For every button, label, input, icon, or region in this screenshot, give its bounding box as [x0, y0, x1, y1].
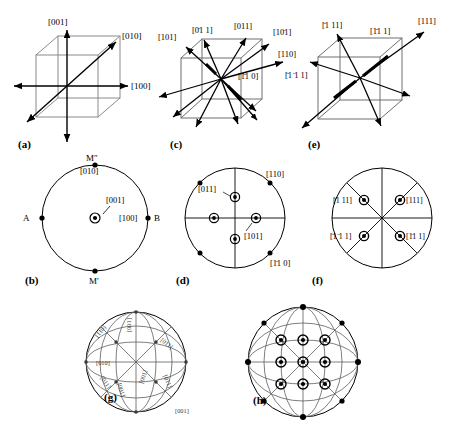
leader-b-001 [103, 206, 110, 214]
directions-c [159, 38, 283, 127]
label-c-110: [110] [278, 49, 296, 59]
caption-b: (b) [25, 274, 39, 287]
label-b-Mprime: M′ [89, 276, 99, 286]
label-d-110: [110] [266, 169, 284, 179]
label-a-010: [010] [122, 31, 142, 41]
pole-b-Mprime [92, 268, 97, 273]
label-f-b1b11: [̈1 ̈1 1] [330, 232, 352, 241]
label-b-B: B [154, 213, 160, 223]
label-g-001-lr: [001] [137, 369, 148, 384]
pole-b-001 [90, 213, 100, 223]
caption-f: (f) [312, 274, 323, 287]
label-c-101: [101] [158, 32, 177, 42]
label-g-001-top: [001] [125, 318, 132, 332]
label-c-1b10: [1̈1 0] [238, 71, 258, 81]
label-a-001: [001] [48, 17, 68, 27]
caption-c: (c) [170, 138, 183, 151]
label-e-111: [111] [418, 16, 436, 26]
caption-e: (e) [308, 138, 321, 151]
pole-b-100 [145, 215, 150, 220]
caption-g: (g) [104, 391, 117, 404]
directions-e [302, 32, 424, 128]
label-b-Msecond: M″ [86, 153, 98, 163]
figure-svg: [001] [010] [100] (a) [0, 0, 465, 434]
label-d-101: [101] [244, 231, 263, 241]
label-g-001-ll: [001] [116, 382, 127, 397]
figure-crystallographic-directions: [001] [010] [100] (a) [0, 0, 465, 434]
label-e-b1b11: [̈1 ̈1 1] [285, 70, 308, 80]
panel-h: (h) [245, 304, 361, 420]
panel-g: [110] [001] [011] [010] [011] [011] [001… [84, 310, 189, 414]
label-d-1b10: [1̈1 0] [270, 258, 290, 268]
label-b-001: [001] [106, 195, 125, 205]
label-g-010: [010] [96, 359, 110, 366]
label-f-111: [111] [406, 196, 423, 205]
label-g-001-out: [001] [175, 407, 189, 414]
label-d-011: [011] [198, 184, 216, 194]
panel-b: M″ [010] [001] [100] A B M′ (b) [23, 153, 160, 287]
panel-c: [101] [0̈1 1] [011] [10̈1] [110] [1̈1 0]… [158, 21, 296, 151]
panel-a: [001] [010] [100] (a) [14, 17, 151, 151]
label-e-1b11: [1̈1 1] [370, 26, 390, 36]
panel-e: [̈1 11] [1̈1 1] [111] [̈1 ̈1 1] (e) [285, 16, 436, 151]
panel-f: [̈1 11] [111] [̈1 ̈1 1] [1̈1 1] (f) [312, 168, 432, 287]
panel-d: [011] [101] [110] [1̈1 0] (d) [176, 168, 290, 287]
label-e-b111: [̈1 11] [322, 20, 342, 30]
axes-a [14, 30, 128, 142]
caption-h: (h) [253, 394, 267, 407]
label-b-100: [100] [119, 213, 138, 223]
caption-d: (d) [176, 274, 190, 287]
caption-a: (a) [18, 138, 31, 151]
pole-b-A [39, 215, 44, 220]
label-f-1b11: [1̈1 1] [406, 232, 425, 241]
label-a-100: [100] [131, 81, 151, 91]
leader-d-101 [246, 223, 252, 231]
label-c-0b11: [0̈1 1] [192, 25, 213, 35]
label-b-010: [010] [80, 166, 99, 176]
label-f-b111: [̈1 11] [333, 196, 352, 205]
label-c-10b1: [10̈1] [273, 27, 292, 37]
label-b-A: A [23, 213, 30, 223]
leader-d-011 [223, 192, 230, 196]
label-c-011: [011] [234, 21, 252, 31]
